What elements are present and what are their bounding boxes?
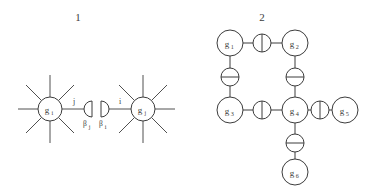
node-g1-subscript: 1	[231, 43, 234, 50]
node-gj-subscript: j	[144, 109, 147, 116]
edge-marker-g1-g3	[221, 68, 239, 86]
node-g3-label: g	[225, 106, 230, 116]
node-g5-subscript: 5	[346, 110, 349, 117]
panel-1: 1 g i	[18, 11, 175, 143]
node-g5: g 5	[332, 97, 358, 123]
edge-marker-g3-g4	[253, 101, 271, 119]
beta-j-subscript: j	[88, 123, 91, 130]
beta-i-subscript: i	[105, 123, 107, 130]
edge-marker-g1-g2	[253, 34, 271, 52]
edge-marker-g2-g4	[286, 68, 304, 86]
panel-2: 2	[217, 11, 358, 185]
spoke-gi-45	[59, 85, 75, 101]
node-g2-label: g	[290, 39, 295, 49]
edge-marker-g4-g6	[286, 134, 304, 152]
node-gj-circle	[131, 97, 155, 121]
node-gi-subscript: i	[52, 109, 54, 116]
spoke-gi-135	[26, 85, 42, 101]
half-disc-beta-j-shape	[84, 101, 92, 117]
node-gi-circle	[38, 97, 62, 121]
node-gi-label: g	[45, 105, 50, 115]
edge-label-j: j	[72, 97, 75, 106]
diagram-canvas: 1 g i	[0, 0, 380, 193]
panel-2-edge-lines	[230, 43, 332, 159]
node-g6-subscript: 6	[296, 172, 299, 179]
node-g4: g 4	[282, 97, 308, 123]
node-g4-subscript: 4	[296, 110, 299, 117]
spoke-gi-225	[26, 118, 42, 134]
spoke-gj-225	[119, 118, 135, 134]
panel-1-label: 1	[75, 11, 81, 23]
spoke-gj-45	[152, 85, 168, 101]
node-gj-label: g	[138, 105, 143, 115]
beta-i-label: β	[99, 119, 103, 128]
edge-marker-g4-g5	[311, 101, 329, 119]
node-g6-label: g	[290, 168, 295, 178]
beta-j-label: β	[83, 119, 87, 128]
node-g4-label: g	[290, 106, 295, 116]
figure-root: 1 g i	[0, 0, 380, 193]
spoke-gi-315	[59, 118, 75, 134]
node-g3-subscript: 3	[231, 110, 234, 117]
panel-2-label: 2	[259, 11, 265, 23]
edge-label-i: i	[119, 97, 122, 106]
node-g3: g 3	[217, 97, 243, 123]
node-g1-label: g	[225, 39, 230, 49]
node-g1: g 1	[217, 30, 243, 56]
spoke-gj-315	[152, 118, 168, 134]
half-disc-beta-i-shape	[101, 101, 109, 117]
node-g2: g 2	[282, 30, 308, 56]
half-disc-beta-j	[84, 101, 92, 117]
spoke-gj-135	[119, 85, 135, 101]
half-disc-beta-i	[101, 101, 109, 117]
node-g2-subscript: 2	[296, 43, 299, 50]
node-g5-label: g	[340, 106, 345, 116]
node-g6: g 6	[282, 159, 308, 185]
